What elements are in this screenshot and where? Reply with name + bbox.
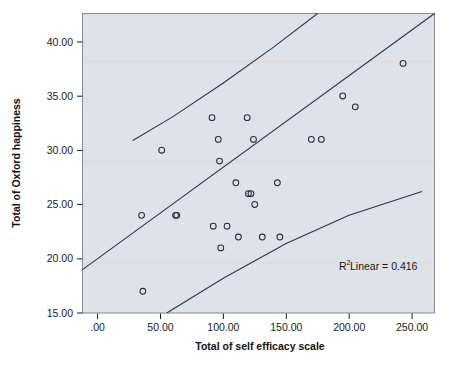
y-tick-label-0: 15.00 [47,307,73,319]
x-tick-label-0: .00 [90,321,105,333]
y-tick-label-1: 20.00 [47,252,73,264]
r-squared-annotation: R 2 Linear = 0.416 [339,259,418,272]
x-axis-title: Total of self efficacy scale [195,340,325,352]
y-tick-label-4: 35.00 [47,90,73,102]
x-tick-label-4: 200.00 [333,321,365,333]
y-axis-title: Total of Oxford happiness [10,98,22,227]
y-tick-label-3: 30.00 [47,144,73,156]
chart-canvas: 15.00 20.00 25.00 30.00 35.00 40.00 .00 … [0,0,459,370]
x-tick-label-2: 100.00 [207,321,239,333]
x-tick-label-1: 50.00 [147,321,173,333]
x-tick-label-5: 250.00 [396,321,428,333]
scatter-plot-figure: 15.00 20.00 25.00 30.00 35.00 40.00 .00 … [0,0,459,370]
y-tick-label-2: 25.00 [47,198,73,210]
r-squared-value: Linear = 0.416 [350,260,418,272]
x-tick-label-3: 150.00 [270,321,302,333]
y-tick-label-5: 40.00 [47,36,73,48]
